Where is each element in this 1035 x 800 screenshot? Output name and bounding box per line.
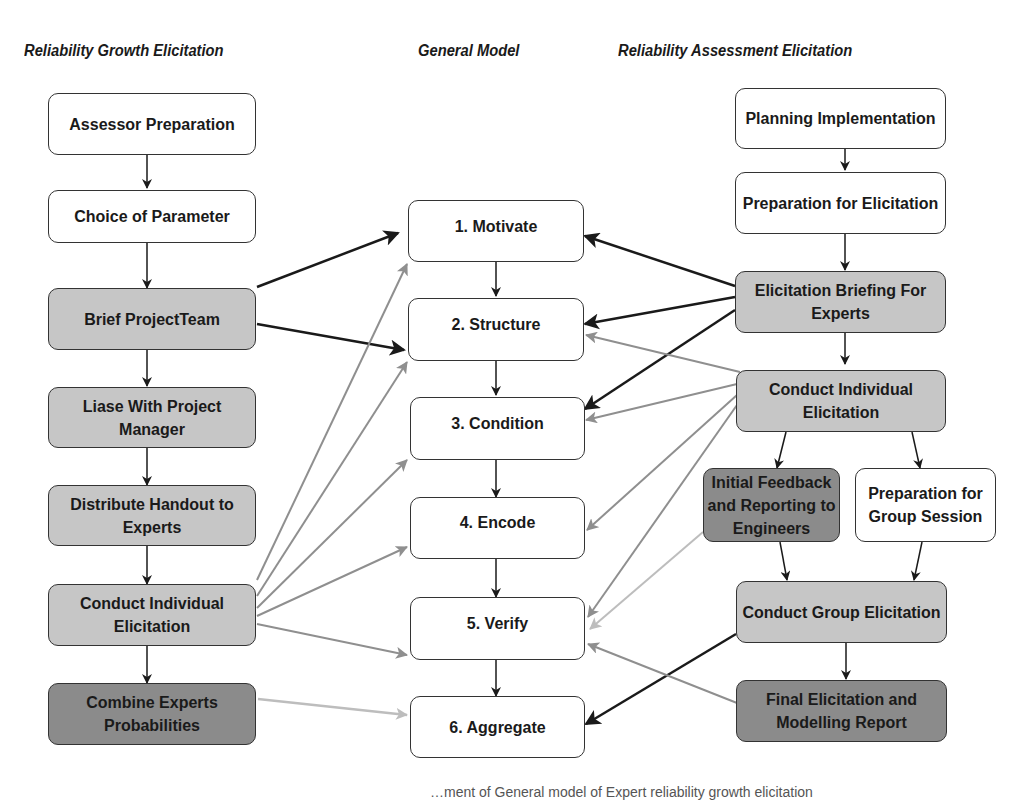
box-aggregate: 6. Aggregate xyxy=(410,696,585,758)
box-motivate: 1. Motivate xyxy=(408,200,584,262)
box-elicitation-briefing: Elicitation Briefing For Experts xyxy=(735,271,946,333)
box-condition: 3. Condition xyxy=(410,397,585,460)
left-to-middle-arrows xyxy=(257,233,407,715)
box-conduct-individual-elicitation-right: Conduct Individual Elicitation xyxy=(736,370,946,432)
box-preparation-group-session: Preparation for Group Session xyxy=(855,468,996,542)
box-structure: 2. Structure xyxy=(408,298,584,361)
box-brief-project-team: Brief ProjectTeam xyxy=(48,288,256,350)
box-liase-with-project-manager: Liase With Project Manager xyxy=(48,387,256,448)
box-verify: 5. Verify xyxy=(410,597,585,660)
box-assessor-preparation: Assessor Preparation xyxy=(48,93,256,155)
box-initial-feedback: Initial Feedback and Reporting to Engine… xyxy=(703,468,840,542)
box-conduct-group-elicitation: Conduct Group Elicitation xyxy=(736,581,947,643)
box-conduct-individual-elicitation-left: Conduct Individual Elicitation xyxy=(48,584,256,646)
heading-reliability-growth: Reliability Growth Elicitation xyxy=(24,42,224,60)
box-distribute-handout: Distribute Handout to Experts xyxy=(48,485,256,546)
box-planning-implementation: Planning Implementation xyxy=(735,88,946,149)
heading-general-model: General Model xyxy=(418,42,519,60)
box-encode: 4. Encode xyxy=(410,497,585,559)
box-combine-experts-probabilities: Combine Experts Probabilities xyxy=(48,683,256,745)
box-final-report: Final Elicitation and Modelling Report xyxy=(736,680,947,742)
figure-caption-fragment: …ment of General model of Expert reliabi… xyxy=(430,784,813,800)
box-preparation-for-elicitation: Preparation for Elicitation xyxy=(735,172,946,234)
heading-reliability-assessment: Reliability Assessment Elicitation xyxy=(618,42,852,60)
box-choice-of-parameter: Choice of Parameter xyxy=(48,190,256,243)
